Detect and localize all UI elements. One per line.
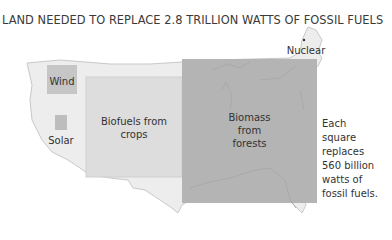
- biofuels-line1: Biofuels from: [86, 115, 182, 128]
- nuclear-label: Nuclear: [284, 44, 328, 57]
- biomass-line3: forests: [182, 137, 317, 150]
- note-line: watts of: [322, 173, 378, 187]
- biofuels-label: Biofuels from crops: [86, 115, 182, 141]
- nuclear-dot: [303, 39, 305, 41]
- biomass-label: Biomass from forests: [182, 111, 317, 150]
- solar-square: [55, 115, 67, 130]
- biomass-line2: from: [182, 124, 317, 137]
- biofuels-line2: crops: [86, 128, 182, 141]
- note-line: fossil fuels.: [322, 187, 378, 201]
- note-line: Each: [322, 117, 378, 131]
- note-line: square: [322, 131, 378, 145]
- note-line: replaces: [322, 145, 378, 159]
- wind-label: Wind: [47, 75, 77, 88]
- note-line: 560 billion: [322, 159, 378, 173]
- legend-note: Each square replaces 560 billion watts o…: [322, 117, 378, 201]
- biomass-line1: Biomass: [182, 111, 317, 124]
- solar-label: Solar: [40, 134, 82, 147]
